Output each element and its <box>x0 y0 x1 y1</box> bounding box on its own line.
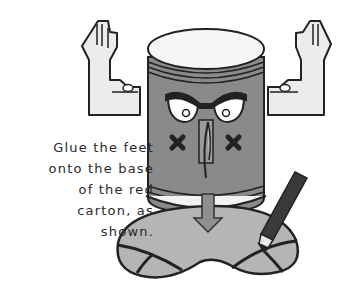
caption-line: of the red <box>4 179 154 200</box>
can-lid-icon <box>148 29 264 69</box>
caption-line: carton, as <box>4 200 154 221</box>
left-arm-icon <box>82 21 140 115</box>
caption-line: Glue the feet <box>4 137 154 158</box>
caption-line: shown. <box>4 221 154 242</box>
instruction-caption: Glue the feet onto the base of the red c… <box>4 137 154 242</box>
robot-craft-illustration: Glue the feet onto the base of the red c… <box>0 0 349 296</box>
right-arm-icon <box>268 21 331 115</box>
caption-line: onto the base <box>4 158 154 179</box>
